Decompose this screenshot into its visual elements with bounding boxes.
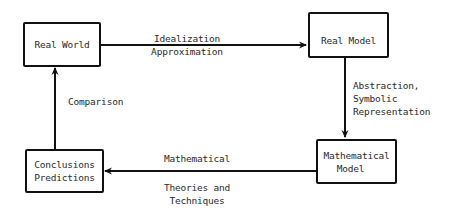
node-real-world: Real World	[23, 22, 101, 67]
node-mathematical-model-line1: Mathematical	[323, 149, 389, 162]
edge-label-comparison: Comparison	[68, 95, 123, 108]
edge-label-idealization-line1: Idealization	[148, 32, 226, 45]
edge-label-abstraction-line3: Representation	[353, 105, 430, 118]
edge-label-abstraction: Abstraction, Symbolic Representation	[353, 79, 430, 118]
edge-label-comparison-text: Comparison	[68, 95, 123, 108]
node-real-model-label: Real Model	[321, 34, 376, 47]
modeling-cycle-diagram: Real World Real Model Mathematical Model…	[0, 0, 455, 216]
edge-label-theories-techniques: Theories and Techniques	[155, 181, 239, 207]
edge-label-theories-line2: Techniques	[155, 194, 239, 207]
edge-label-abstraction-line2: Symbolic	[353, 92, 430, 105]
edge-label-idealization: Idealization Approximation	[148, 32, 226, 58]
edge-label-approximation-line2: Approximation	[148, 45, 226, 58]
edge-label-abstraction-line1: Abstraction,	[353, 79, 430, 92]
node-real-model: Real Model	[308, 12, 389, 58]
node-mathematical-model: Mathematical Model	[316, 139, 397, 184]
node-conclusions-predictions: Conclusions Predictions	[25, 149, 104, 193]
node-real-world-label: Real World	[34, 38, 89, 51]
node-mathematical-model-line2: Model	[337, 162, 365, 175]
edge-label-mathematical: Mathematical	[155, 152, 239, 165]
edge-label-theories-line1: Theories and	[155, 181, 239, 194]
edge-label-mathematical-text: Mathematical	[155, 152, 239, 165]
node-conclusions-line2: Predictions	[34, 171, 95, 184]
node-conclusions-line1: Conclusions	[34, 158, 95, 171]
